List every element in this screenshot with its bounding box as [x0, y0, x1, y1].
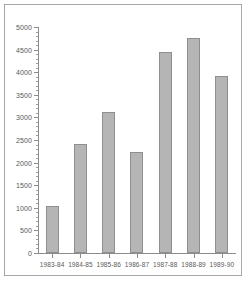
x-tick-mark [109, 254, 110, 258]
x-tick-mark [52, 254, 53, 258]
y-tick-mark [34, 253, 38, 254]
bar-series [38, 27, 236, 253]
x-tick-label: 1984-85 [68, 261, 93, 268]
bar [46, 206, 59, 253]
bar [215, 76, 228, 253]
y-tick-label: 500 [20, 227, 32, 234]
x-tick-label: 1983-84 [40, 261, 65, 268]
y-tick-label: 4000 [16, 69, 32, 76]
bar [187, 38, 200, 253]
x-tick-label: 1985-86 [96, 261, 121, 268]
chart-figure: 0500100015002000250030003500400045005000… [0, 0, 247, 281]
bar [74, 144, 87, 253]
y-tick-label: 0 [28, 250, 32, 257]
y-tick-label: 3500 [16, 91, 32, 98]
y-tick-label: 3000 [16, 114, 32, 121]
y-tick-label: 2500 [16, 137, 32, 144]
plot-area: 0500100015002000250030003500400045005000… [38, 27, 236, 253]
x-tick-label: 1989-90 [210, 261, 235, 268]
x-tick-label: 1986-87 [125, 261, 150, 268]
x-tick-mark [194, 254, 195, 258]
y-tick-label: 1000 [16, 204, 32, 211]
bar [159, 52, 172, 253]
y-tick-label: 5000 [16, 24, 32, 31]
x-tick-mark [137, 254, 138, 258]
y-tick-label: 4500 [16, 46, 32, 53]
y-tick-label: 2000 [16, 159, 32, 166]
x-tick-mark [165, 254, 166, 258]
x-tick-label: 1987-88 [153, 261, 178, 268]
y-tick-label: 1500 [16, 182, 32, 189]
bar [102, 112, 115, 253]
x-tick-label: 1988-89 [181, 261, 206, 268]
x-tick-mark [80, 254, 81, 258]
figure-frame: 0500100015002000250030003500400045005000… [4, 4, 242, 276]
bar [130, 152, 143, 253]
x-tick-mark [222, 254, 223, 258]
